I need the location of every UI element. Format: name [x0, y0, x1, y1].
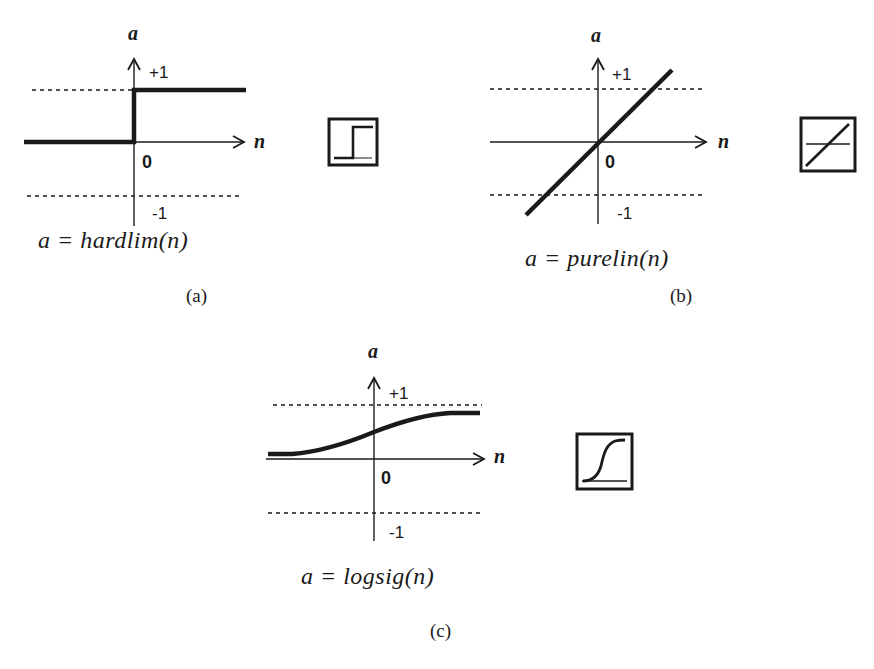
- caption: (b): [670, 285, 692, 307]
- formula: a = hardlim(n): [38, 227, 188, 253]
- upper-tick-label: +1: [389, 384, 408, 403]
- y-axis-label: a: [591, 24, 601, 46]
- hardlim-curve: [24, 90, 246, 142]
- logsig-sigmoid-icon: [577, 434, 632, 489]
- upper-tick-label: +1: [149, 63, 168, 82]
- y-axis-label: a: [368, 340, 378, 362]
- caption: (c): [430, 620, 451, 642]
- x-axis-label: n: [718, 130, 729, 152]
- panel-logsig: a +1 n 0 -1 a = logsig(n) (c): [266, 340, 632, 642]
- origin-label: 0: [381, 468, 391, 488]
- panel-hardlim: a +1 n 0 -1 a = hardlim(n) (a): [24, 22, 377, 307]
- panel-purelin: a +1 n 0 -1 a = purelin(n) (b): [490, 24, 855, 307]
- x-axis-label: n: [494, 445, 505, 467]
- caption: (a): [186, 285, 207, 307]
- upper-tick-label: +1: [612, 65, 631, 84]
- formula: a = logsig(n): [301, 563, 434, 589]
- purelin-linear-icon: [801, 118, 855, 171]
- origin-label: 0: [142, 152, 152, 172]
- lower-tick-label: -1: [152, 204, 167, 223]
- y-axis-label: a: [128, 22, 138, 44]
- activation-functions-figure: a +1 n 0 -1 a = hardlim(n) (a) a +1 n 0: [0, 0, 874, 669]
- formula: a = purelin(n): [525, 245, 669, 271]
- hardlim-step-icon: [329, 119, 377, 165]
- x-axis-label: n: [254, 130, 265, 152]
- lower-tick-label: -1: [389, 523, 404, 542]
- origin-label: 0: [605, 152, 615, 172]
- lower-tick-label: -1: [617, 204, 632, 223]
